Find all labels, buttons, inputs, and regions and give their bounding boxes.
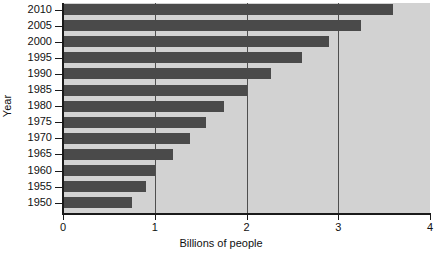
y-tick-1950 xyxy=(55,203,63,204)
y-tick-1990 xyxy=(55,74,63,75)
bar-2000 xyxy=(63,36,329,47)
bar-row xyxy=(63,68,430,79)
x-tick-label-1: 1 xyxy=(143,221,167,233)
plot-area xyxy=(63,3,430,213)
bar-row xyxy=(63,181,430,192)
bar-1980 xyxy=(63,101,224,112)
bar-1975 xyxy=(63,117,206,128)
bar-1990 xyxy=(63,68,271,79)
bar-row xyxy=(63,117,430,128)
y-tick-2005 xyxy=(55,26,63,27)
y-tick-1960 xyxy=(55,171,63,172)
x-tick-3 xyxy=(338,215,339,220)
y-tick-1970 xyxy=(55,138,63,139)
bar-1955 xyxy=(63,181,146,192)
y-tick-1995 xyxy=(55,58,63,59)
y-tick-1985 xyxy=(55,90,63,91)
bar-1995 xyxy=(63,52,302,63)
y-tick-label-1995: 1995 xyxy=(10,52,52,63)
y-tick-1955 xyxy=(55,187,63,188)
y-tick-label-2000: 2000 xyxy=(10,36,52,47)
bar-row xyxy=(63,101,430,112)
y-tick-label-2005: 2005 xyxy=(10,20,52,31)
bar-chart-figure: Billions of people Year 2010200520001995… xyxy=(0,0,442,257)
y-tick-label-1960: 1960 xyxy=(10,165,52,176)
x-tick-label-3: 3 xyxy=(326,221,350,233)
x-axis-title: Billions of people xyxy=(0,237,442,249)
y-tick-label-1965: 1965 xyxy=(10,148,52,159)
y-tick-1965 xyxy=(55,154,63,155)
bar-row xyxy=(63,149,430,160)
bar-row xyxy=(63,165,430,176)
bar-row xyxy=(63,133,430,144)
y-tick-label-2010: 2010 xyxy=(10,4,52,15)
bar-row xyxy=(63,20,430,31)
y-tick-label-1955: 1955 xyxy=(10,181,52,192)
x-tick-label-4: 4 xyxy=(418,221,442,233)
y-tick-2010 xyxy=(55,10,63,11)
y-tick-label-1950: 1950 xyxy=(10,197,52,208)
bar-1950 xyxy=(63,197,132,208)
bar-1970 xyxy=(63,133,190,144)
y-tick-2000 xyxy=(55,42,63,43)
y-tick-label-1980: 1980 xyxy=(10,100,52,111)
x-tick-4 xyxy=(430,215,431,220)
y-axis-line xyxy=(62,3,64,215)
bar-row xyxy=(63,4,430,15)
x-tick-label-0: 0 xyxy=(51,221,75,233)
bar-row xyxy=(63,52,430,63)
bar-row xyxy=(63,197,430,208)
bar-row xyxy=(63,36,430,47)
y-tick-1980 xyxy=(55,106,63,107)
bar-2010 xyxy=(63,4,393,15)
y-tick-label-1985: 1985 xyxy=(10,84,52,95)
bar-row xyxy=(63,85,430,96)
bar-2005 xyxy=(63,20,361,31)
x-tick-2 xyxy=(247,215,248,220)
bar-1960 xyxy=(63,165,155,176)
y-tick-label-1990: 1990 xyxy=(10,68,52,79)
y-tick-label-1975: 1975 xyxy=(10,116,52,127)
x-tick-0 xyxy=(63,215,64,220)
y-tick-1975 xyxy=(55,122,63,123)
y-tick-label-1970: 1970 xyxy=(10,132,52,143)
x-tick-1 xyxy=(155,215,156,220)
bar-1965 xyxy=(63,149,173,160)
x-tick-label-2: 2 xyxy=(235,221,259,233)
bar-1985 xyxy=(63,85,247,96)
